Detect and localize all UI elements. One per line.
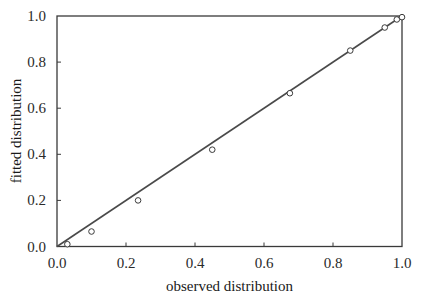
x-tick-label: 1.0 (393, 255, 412, 271)
x-axis-title: observed distribution (166, 278, 294, 294)
x-tick-label: 0.6 (255, 255, 274, 271)
y-tick-label: 0.2 (27, 192, 46, 208)
x-tick-label: 0.4 (186, 255, 205, 271)
data-point (209, 147, 215, 153)
data-points (65, 14, 405, 247)
y-axis-title: fitted distribution (8, 78, 24, 183)
chart-canvas: 0.00.20.40.60.81.0 0.00.20.40.60.81.0 ob… (0, 0, 421, 302)
data-point (399, 14, 405, 20)
data-point (65, 241, 71, 247)
y-tick-label: 0.4 (27, 146, 46, 162)
y-tick-label: 0.0 (27, 239, 46, 255)
data-point (287, 90, 293, 96)
data-point (382, 25, 388, 31)
y-axis-ticks: 0.00.20.40.60.81.0 (27, 8, 61, 255)
x-tick-label: 0.0 (48, 255, 67, 271)
y-tick-label: 0.8 (27, 54, 46, 70)
data-point (89, 229, 95, 235)
data-point (347, 48, 353, 54)
y-tick-label: 1.0 (27, 8, 46, 24)
data-point (135, 198, 141, 204)
x-tick-label: 0.8 (324, 255, 343, 271)
y-tick-label: 0.6 (27, 100, 46, 116)
x-tick-label: 0.2 (117, 255, 136, 271)
